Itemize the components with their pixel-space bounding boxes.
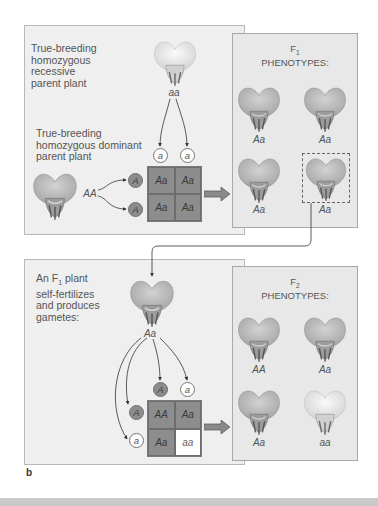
figure-label: b: [26, 467, 32, 478]
bottom-divider-bar: [0, 498, 378, 506]
arrow-connectors: [0, 0, 378, 506]
